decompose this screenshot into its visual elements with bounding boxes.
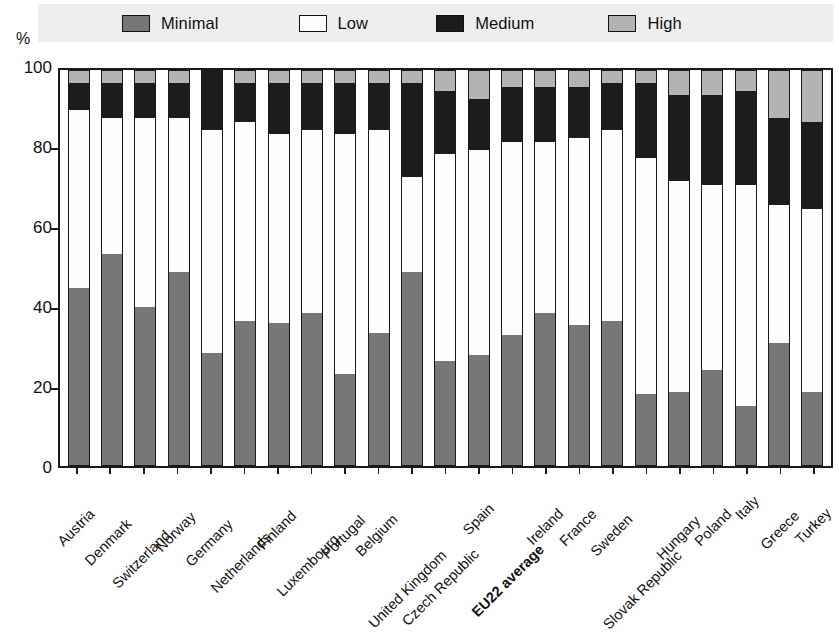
stacked-bar[interactable] [468, 70, 490, 466]
bar-slot [129, 70, 162, 466]
bar-segment-high [402, 71, 422, 83]
x-label-slot: Greece [764, 468, 798, 578]
y-axis-tick-mark [51, 148, 58, 150]
chart-legend: Minimal Low Medium High [38, 4, 833, 42]
bar-segment-low [335, 134, 355, 374]
bar-slot [295, 70, 328, 466]
bar-slot [796, 70, 829, 466]
bar-slot [429, 70, 462, 466]
bar-segment-high [102, 71, 122, 83]
stacked-bar[interactable] [101, 70, 123, 466]
bar-segment-medium [535, 87, 555, 142]
bar-slot [729, 70, 762, 466]
bar-slot [162, 70, 195, 466]
bar-slot [395, 70, 428, 466]
bar-segment-medium [135, 83, 155, 118]
stacked-bar[interactable] [568, 70, 590, 466]
bar-segment-low [269, 134, 289, 323]
bar-slot [529, 70, 562, 466]
stacked-bar[interactable] [301, 70, 323, 466]
chart-plot-area [58, 68, 833, 468]
stacked-bar[interactable] [201, 70, 223, 466]
bar-segment-low [802, 209, 822, 392]
bar-slot [362, 70, 395, 466]
stacked-bar[interactable] [134, 70, 156, 466]
legend-swatch-minimal [122, 15, 150, 32]
bar-segment-medium [802, 122, 822, 209]
stacked-bar[interactable] [334, 70, 356, 466]
bar-segment-minimal [135, 307, 155, 465]
stacked-bar[interactable] [68, 70, 90, 466]
y-axis-tick-label: 60 [8, 218, 52, 238]
bar-segment-medium [502, 87, 522, 142]
bar-segment-low [669, 181, 689, 392]
stacked-bar[interactable] [768, 70, 790, 466]
x-axis-category-text: Greece [757, 508, 802, 553]
stacked-bar[interactable] [534, 70, 556, 466]
y-axis-tick-label: 100 [8, 58, 52, 78]
stacked-bar[interactable] [601, 70, 623, 466]
x-label-slot: EU22 average [496, 468, 530, 578]
bar-segment-medium [469, 99, 489, 150]
stacked-bar[interactable] [368, 70, 390, 466]
bar-segment-minimal [69, 288, 89, 465]
y-axis-tick-mark [51, 228, 58, 230]
bar-segment-high [169, 71, 189, 83]
bar-segment-low [636, 158, 656, 394]
y-axis-tick-mark [51, 308, 58, 310]
bar-slot [495, 70, 528, 466]
bar-segment-high [335, 71, 355, 83]
bar-segment-low [135, 118, 155, 307]
stacked-bar[interactable] [268, 70, 290, 466]
bar-segment-high [69, 71, 89, 83]
bar-segment-low [502, 142, 522, 335]
legend-item-minimal: Minimal [122, 14, 219, 33]
stacked-bar[interactable] [434, 70, 456, 466]
legend-item-medium: Medium [436, 14, 534, 33]
x-label-slot: Czech Republic [429, 468, 463, 578]
bar-segment-medium [169, 83, 189, 118]
bar-segment-high [769, 71, 789, 118]
x-label-slot: Netherlands [228, 468, 262, 578]
bar-slot [762, 70, 795, 466]
bar-segment-minimal [435, 361, 455, 465]
stacked-bar[interactable] [234, 70, 256, 466]
bar-segment-minimal [702, 370, 722, 465]
bar-segment-medium [769, 118, 789, 205]
y-axis-tick-label: 80 [8, 138, 52, 158]
stacked-bar[interactable] [635, 70, 657, 466]
legend-swatch-low [299, 15, 327, 32]
legend-swatch-medium [436, 15, 464, 32]
legend-swatch-high [608, 15, 636, 32]
stacked-bar[interactable] [735, 70, 757, 466]
x-axis-category-text: Finland [254, 508, 299, 553]
bar-segment-minimal [636, 394, 656, 465]
bar-slot [195, 70, 228, 466]
stacked-bar[interactable] [401, 70, 423, 466]
bar-slot [696, 70, 729, 466]
bar-segment-medium [435, 91, 455, 154]
bar-slot [229, 70, 262, 466]
bar-segment-low [235, 122, 255, 321]
bar-segment-low [69, 110, 89, 287]
stacked-bar[interactable] [501, 70, 523, 466]
bar-segment-minimal [102, 254, 122, 465]
stacked-bar[interactable] [668, 70, 690, 466]
bar-segment-low [402, 177, 422, 272]
bar-segment-high [369, 71, 389, 83]
bar-segment-high [802, 71, 822, 122]
bar-segment-minimal [302, 313, 322, 465]
stacked-bar[interactable] [168, 70, 190, 466]
x-label-slot: Finland [261, 468, 295, 578]
stacked-bar[interactable] [701, 70, 723, 466]
x-label-slot: Turkey [797, 468, 831, 578]
bar-segment-high [502, 71, 522, 87]
legend-item-high: High [608, 14, 681, 33]
bar-segment-medium [736, 91, 756, 186]
bar-segment-low [369, 130, 389, 333]
legend-item-low: Low [299, 14, 369, 33]
stacked-bar[interactable] [801, 70, 823, 466]
legend-label-low: Low [338, 14, 369, 33]
x-axis-labels: AustriaDenmarkSwitzerlandNorwayGermanyNe… [58, 468, 833, 578]
bar-slot [562, 70, 595, 466]
